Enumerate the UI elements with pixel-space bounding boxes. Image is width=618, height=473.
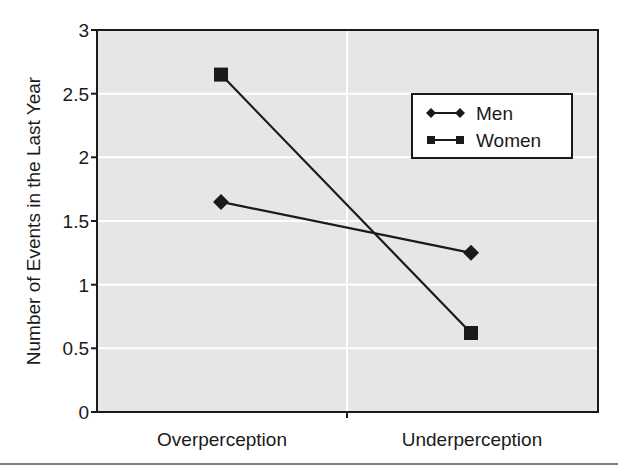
y-tick-label: 0 xyxy=(78,402,89,423)
y-tick-label: 2.5 xyxy=(63,84,89,105)
women-marker-square xyxy=(214,68,228,82)
chart: 0 0.5 1 1.5 2 2.5 3 Number of Events in … xyxy=(0,0,618,473)
y-tick-label: 1.5 xyxy=(63,211,89,232)
y-tick-label: 3 xyxy=(78,20,89,41)
women-marker-square xyxy=(464,326,478,340)
legend-label-men: Men xyxy=(476,103,513,124)
y-tick-labels: 0 0.5 1 1.5 2 2.5 3 xyxy=(63,20,89,423)
legend: Men Women xyxy=(412,94,572,158)
legend-square-icon xyxy=(427,136,435,144)
y-tick-label: 1 xyxy=(78,275,89,296)
legend-label-women: Women xyxy=(476,130,541,151)
x-category-label: Underperception xyxy=(402,429,542,450)
y-tick-label: 0.5 xyxy=(63,338,89,359)
legend-square-icon xyxy=(456,136,464,144)
y-axis-title: Number of Events in the Last Year xyxy=(23,76,44,365)
y-tick-label: 2 xyxy=(78,147,89,168)
x-category-label: Overperception xyxy=(157,429,287,450)
